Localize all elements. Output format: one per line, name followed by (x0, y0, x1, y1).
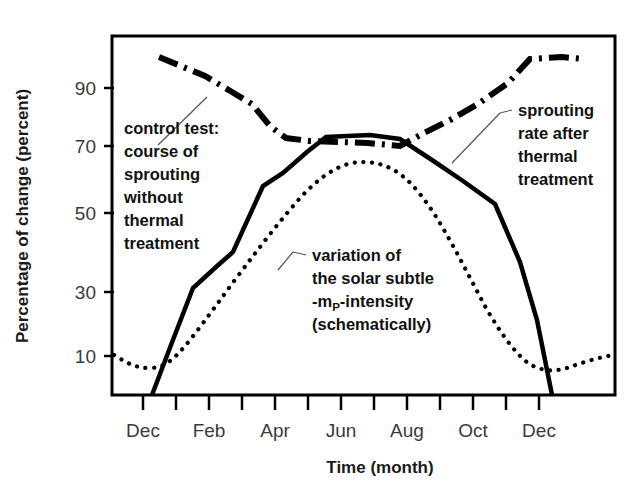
annot-solar-line4: (schematically) (312, 315, 431, 333)
annot-solar-line3-prefix: -m (312, 292, 332, 310)
annot-solar-line1: variation of (312, 246, 401, 264)
x-tick-label-dec-1: Dec (126, 420, 160, 441)
annot-control-line5: thermal (124, 211, 184, 229)
annot-control-line3: sprouting (124, 165, 200, 183)
annot-sprouting-line1: sprouting (518, 101, 594, 119)
x-tick-label-oct: Oct (458, 420, 488, 441)
y-tick-label-70: 70 (75, 136, 96, 157)
chart-background (0, 0, 642, 485)
chart-figure: 90 70 50 30 10 Dec Feb Apr Ju (0, 0, 642, 485)
annot-solar-line2: the solar subtle (312, 269, 434, 287)
annot-sprouting-line2: rate after (518, 124, 589, 142)
annot-sprouting-line3: thermal (518, 147, 578, 165)
x-tick-label-dec-2: Dec (522, 420, 556, 441)
annot-solar-line3: -mP-intensity (312, 292, 414, 313)
x-tick-label-aug: Aug (390, 420, 424, 441)
y-tick-label-10: 10 (75, 346, 96, 367)
annot-control-line1: control test: (124, 119, 219, 137)
y-axis-title: Percentage of change (percent) (13, 89, 32, 343)
annot-sprouting-line4: treatment (518, 170, 594, 188)
annot-control-line4: without (123, 188, 183, 206)
line-chart: 90 70 50 30 10 Dec Feb Apr Ju (0, 0, 642, 485)
y-tick-label-90: 90 (75, 78, 96, 99)
y-tick-label-50: 50 (75, 203, 96, 224)
y-tick-label-30: 30 (75, 282, 96, 303)
annot-control-line2: course of (124, 142, 199, 160)
x-tick-label-jun: Jun (326, 420, 357, 441)
annot-control-line6: treatment (124, 234, 200, 252)
x-tick-label-apr: Apr (260, 420, 290, 441)
x-tick-label-feb: Feb (193, 420, 226, 441)
annot-solar-line3-suffix: -intensity (340, 292, 414, 310)
x-axis-title: Time (month) (326, 458, 433, 477)
